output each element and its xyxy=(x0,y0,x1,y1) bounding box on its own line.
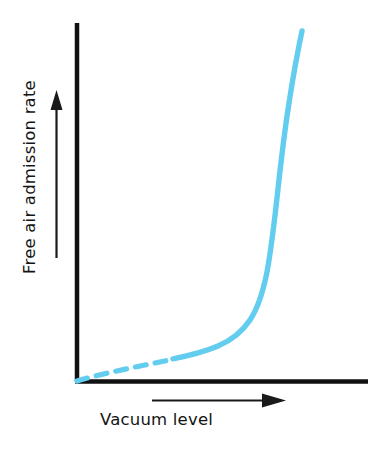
plot-background xyxy=(0,0,385,453)
chart-canvas xyxy=(0,0,385,453)
y-axis-label: Free air admission rate xyxy=(22,52,44,302)
x-axis-label: Vacuum level xyxy=(100,412,340,429)
chart-figure: Free air admission rate Vacuum level xyxy=(0,0,385,453)
